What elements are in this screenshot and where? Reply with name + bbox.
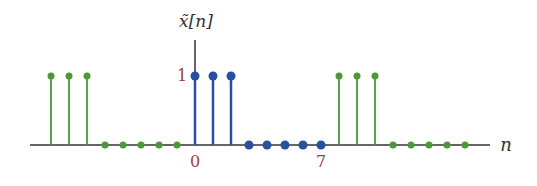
stem-marker	[354, 73, 361, 80]
x-tick-7: 7	[316, 152, 326, 171]
stem-marker	[138, 142, 145, 149]
stem-marker	[48, 73, 55, 80]
stem-marker	[336, 73, 343, 80]
stem-marker	[462, 142, 469, 149]
stem-marker	[209, 72, 218, 81]
y-axis-label: x̃[n]	[179, 11, 213, 31]
stem-marker	[102, 142, 109, 149]
stem-marker	[426, 142, 433, 149]
x-tick-0: 0	[190, 152, 200, 171]
stem-marker	[156, 142, 163, 149]
stems	[48, 72, 469, 150]
stem-marker	[120, 142, 127, 149]
stem-marker	[372, 73, 379, 80]
stem-marker	[281, 141, 290, 150]
stem-marker	[299, 141, 308, 150]
stem-marker	[408, 142, 415, 149]
stem-marker	[191, 72, 200, 81]
stem-marker	[84, 73, 91, 80]
y-tick-1: 1	[177, 66, 187, 85]
stem-marker	[66, 73, 73, 80]
stem-marker	[390, 142, 397, 149]
stem-plot: x̃[n] n 0 7 1	[0, 0, 537, 186]
stem-marker	[174, 142, 181, 149]
stem-marker	[317, 141, 326, 150]
axes	[30, 40, 490, 145]
x-axis-label: n	[500, 134, 512, 155]
stem-marker	[263, 141, 272, 150]
stem-marker	[444, 142, 451, 149]
stem-marker	[227, 72, 236, 81]
stem-marker	[245, 141, 254, 150]
